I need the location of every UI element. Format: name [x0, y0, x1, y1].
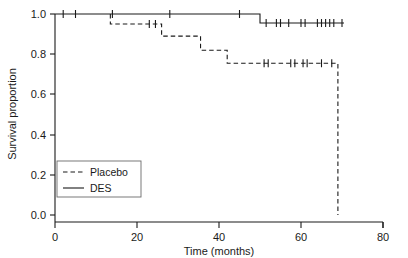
chart-legend[interactable]: Placebo DES [57, 161, 141, 197]
y-tick-label-3: 0.6 [31, 88, 46, 100]
y-axis-ticks [50, 14, 55, 215]
y-tick-label-4: 0.8 [31, 48, 46, 60]
x-axis-ticks [55, 222, 383, 228]
series-placebo [110, 14, 338, 215]
y-tick-label-2: 0.4 [31, 129, 46, 141]
legend-label-placebo: Placebo [90, 166, 128, 178]
chart-canvas: 0.0 0.2 0.4 0.6 0.8 1.0 0 20 40 60 80 Ti… [0, 0, 408, 258]
y-axis-title: Survival proportion [6, 68, 18, 160]
x-tick-label-1: 20 [131, 231, 143, 243]
series-des [55, 10, 344, 27]
x-tick-label-3: 60 [295, 231, 307, 243]
x-axis-title: Time (months) [184, 245, 255, 257]
survival-curve-placebo [110, 14, 338, 215]
x-tick-label-4: 80 [377, 231, 389, 243]
y-tick-label-0: 0.0 [31, 209, 46, 221]
x-tick-label-2: 40 [213, 231, 225, 243]
legend-label-des: DES [90, 182, 112, 194]
survival-chart-figure: 0.0 0.2 0.4 0.6 0.8 1.0 0 20 40 60 80 Ti… [0, 0, 408, 258]
y-tick-label-1: 0.2 [31, 169, 46, 181]
y-tick-label-5: 1.0 [31, 8, 46, 20]
x-tick-label-0: 0 [52, 231, 58, 243]
